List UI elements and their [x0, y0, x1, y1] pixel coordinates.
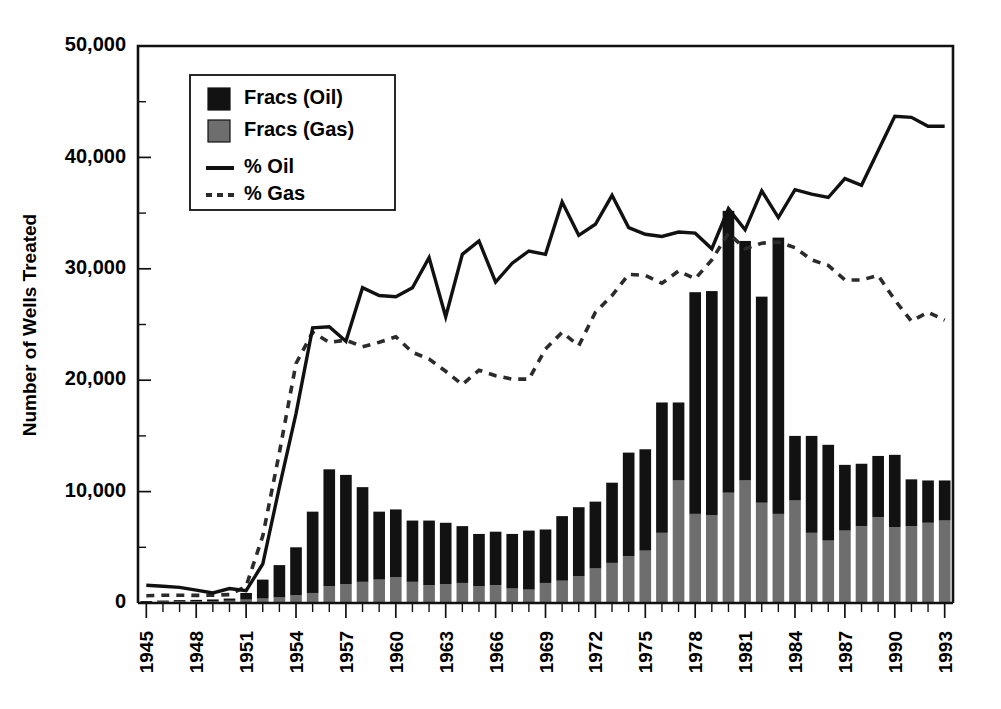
bar-segment-oil [473, 534, 485, 586]
bar-segment-oil [739, 241, 751, 481]
y-tick-label: 30,000 [65, 256, 126, 278]
x-tick-label: 1969 [536, 631, 557, 673]
bar-segment-gas [856, 526, 868, 603]
bar-segment-gas [457, 583, 469, 603]
bar-segment-oil [822, 445, 834, 541]
legend-swatch-gas-icon [208, 120, 230, 142]
bar-segment-gas [490, 585, 502, 603]
bar-segment-oil [872, 456, 884, 517]
bar-segment-oil [190, 600, 202, 601]
bar-segment-oil [523, 531, 535, 590]
bar-segment-gas [739, 480, 751, 603]
bar-segment-gas [423, 585, 435, 603]
bar-segment-oil [340, 475, 352, 584]
bar-segment-gas [706, 515, 718, 603]
x-tick-label: 1972 [585, 631, 606, 673]
bar-segment-gas [606, 563, 618, 603]
bar-segment-gas [307, 593, 319, 603]
bar-segment-gas [373, 580, 385, 603]
bar-segment-gas [673, 480, 685, 603]
bar-segment-oil [490, 532, 502, 585]
bar-segment-gas [656, 533, 668, 603]
bar-segment-gas [822, 541, 834, 603]
legend-item-label: % Gas [244, 182, 305, 204]
bar-segment-oil [357, 487, 369, 582]
bar-segment-oil [773, 238, 785, 514]
bar-segment-oil [174, 600, 186, 601]
y-tick-label: 40,000 [65, 145, 126, 167]
legend-item-label: % Oil [244, 155, 294, 177]
bar-segment-oil [723, 211, 735, 493]
chart-legend: Fracs (Oil)Fracs (Gas)% Oil% Gas [190, 75, 395, 210]
bar-segment-oil [839, 465, 851, 531]
bar-segment-oil [689, 292, 701, 514]
x-tick-label: 1954 [286, 631, 307, 674]
bar-segment-gas [773, 514, 785, 603]
bar-segment-oil [856, 464, 868, 526]
bar-segment-gas [623, 556, 635, 603]
bar-segment-oil [440, 523, 452, 584]
x-tick-label: 1960 [386, 631, 407, 673]
y-axis-title-text: Number of Wells Treated [19, 214, 40, 436]
bar-segment-oil [207, 599, 219, 601]
y-tick-label: 10,000 [65, 479, 126, 501]
x-tick-label: 1981 [735, 631, 756, 674]
legend-item-label: Fracs (Gas) [244, 118, 354, 140]
bar-segment-gas [357, 582, 369, 603]
x-tick-label: 1957 [336, 631, 357, 673]
bar-segment-oil [506, 534, 518, 589]
bar-segment-oil [240, 593, 252, 600]
bar-segment-gas [906, 526, 918, 603]
bar-segment-oil [573, 507, 585, 576]
bar-segment-oil [224, 599, 236, 601]
bar-segment-oil [789, 436, 801, 501]
bar-segment-oil [656, 402, 668, 532]
bar-segment-gas [573, 576, 585, 603]
bar-segment-gas [340, 584, 352, 603]
y-tick-label: 20,000 [65, 367, 126, 389]
bar-segment-oil [906, 479, 918, 526]
bar-segment-oil [390, 509, 402, 577]
bar-segment-gas [939, 521, 951, 603]
x-tick-label: 1990 [885, 631, 906, 673]
bar-segment-gas [723, 493, 735, 603]
y-axis-title: Number of Wells Treated [19, 214, 40, 436]
bar-segment-gas [756, 503, 768, 603]
bar-segment-oil [673, 402, 685, 480]
x-tick-label: 1975 [635, 631, 656, 674]
bar-segment-oil [307, 512, 319, 593]
bar-segment-oil [423, 521, 435, 586]
legend-item-label: Fracs (Oil) [244, 86, 343, 108]
bar-segment-oil [639, 449, 651, 550]
bar-segment-oil [373, 512, 385, 580]
bar-segment-oil [540, 529, 552, 582]
x-tick-label: 1966 [486, 631, 507, 673]
x-tick-label: 1993 [935, 631, 956, 673]
bar-segment-oil [556, 516, 568, 581]
x-tick-label: 1987 [835, 631, 856, 673]
bar-segment-gas [390, 577, 402, 603]
bar-segment-oil [457, 526, 469, 583]
bar-segment-oil [323, 469, 335, 586]
chart-figure: 010,00020,00030,00040,00050,000 19451948… [0, 0, 1001, 709]
bar-segment-oil [407, 521, 419, 582]
bar-segment-gas [872, 517, 884, 603]
bar-segment-oil [623, 453, 635, 557]
x-tick-label: 1945 [136, 631, 157, 674]
bar-segment-gas [523, 590, 535, 603]
y-tick-label: 50,000 [65, 33, 126, 55]
bar-segment-oil [157, 601, 169, 602]
bar-segment-oil [939, 480, 951, 520]
bar-segment-gas [806, 533, 818, 603]
bar-segment-gas [506, 589, 518, 603]
legend-swatch-oil-icon [208, 88, 230, 110]
bar-segment-gas [440, 584, 452, 603]
bar-segment-gas [407, 582, 419, 603]
bar-segment-oil [290, 547, 302, 595]
bar-segment-gas [323, 586, 335, 603]
bar-segment-oil [606, 483, 618, 563]
chart-canvas: 010,00020,00030,00040,00050,000 19451948… [0, 0, 1001, 709]
bar-segment-oil [806, 436, 818, 533]
bar-segment-oil [922, 480, 934, 522]
bar-segment-gas [839, 531, 851, 603]
